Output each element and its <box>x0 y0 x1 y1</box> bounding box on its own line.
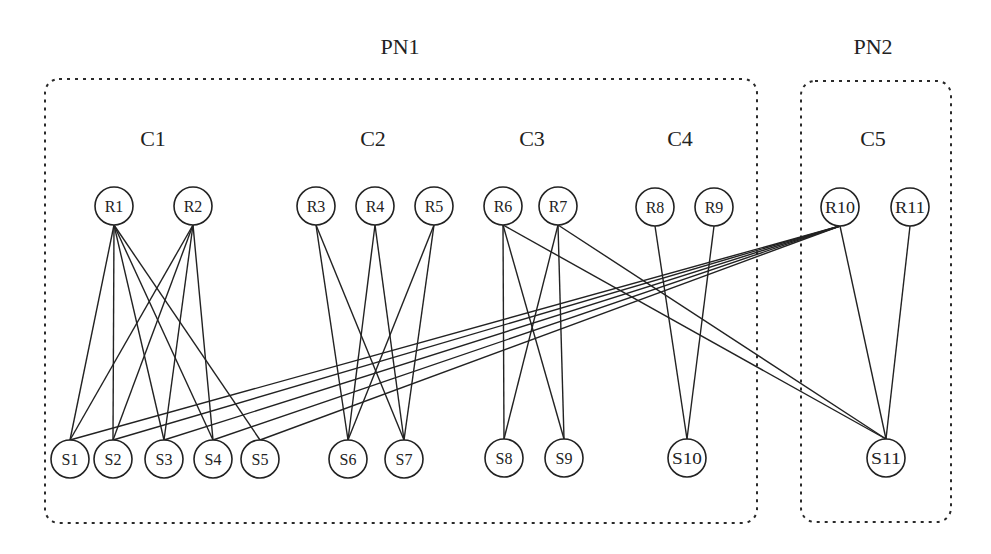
node-label: R10 <box>825 199 855 216</box>
node-label: R8 <box>646 199 665 216</box>
cluster-label-c5: C5 <box>860 126 886 151</box>
edge-r7-s11 <box>558 225 886 439</box>
node-label: S2 <box>105 451 122 468</box>
node-r3[interactable]: R3 <box>297 187 335 225</box>
node-s6[interactable]: S6 <box>329 440 367 478</box>
edge-r2-s4 <box>193 225 213 440</box>
node-s4[interactable]: S4 <box>194 440 232 478</box>
node-r11[interactable]: R11 <box>891 188 929 226</box>
node-label: S10 <box>672 450 702 467</box>
node-label: R4 <box>366 198 385 215</box>
node-label: S7 <box>396 451 413 468</box>
cluster-label-c2: C2 <box>360 126 386 151</box>
cluster-label-c3: C3 <box>519 126 545 151</box>
node-s9[interactable]: S9 <box>545 439 583 477</box>
node-r5[interactable]: R5 <box>415 187 453 225</box>
edge-r10-s3 <box>164 226 840 440</box>
node-s8[interactable]: S8 <box>485 439 523 477</box>
node-label: R5 <box>425 198 444 215</box>
node-label: S11 <box>871 450 901 467</box>
node-r8[interactable]: R8 <box>636 188 674 226</box>
node-s1[interactable]: S1 <box>51 440 89 478</box>
node-label: S3 <box>156 451 173 468</box>
edge-r3-s6 <box>316 225 348 440</box>
edge-r9-s10 <box>687 226 714 439</box>
node-label: R1 <box>105 198 124 215</box>
network-diagram: R1R2R3R4R5R6R7R8R9R10R11S1S2S3S4S5S6S7S8… <box>0 0 991 554</box>
group-label-pn2: PN2 <box>853 34 892 59</box>
node-r2[interactable]: R2 <box>174 187 212 225</box>
node-label: S6 <box>340 451 357 468</box>
node-label: S9 <box>556 450 573 467</box>
labels: PN1PN2C1C2C3C4C5 <box>140 34 892 151</box>
node-label: S8 <box>496 450 513 467</box>
edge-r10-s2 <box>113 226 840 440</box>
node-s3[interactable]: S3 <box>145 440 183 478</box>
node-s7[interactable]: S7 <box>385 440 423 478</box>
node-label: R11 <box>895 199 925 216</box>
node-s10[interactable]: S10 <box>668 439 706 477</box>
edge-r1-s3 <box>114 225 164 440</box>
edge-r2-s1 <box>70 225 193 440</box>
node-label: S4 <box>205 451 222 468</box>
node-label: R3 <box>307 198 326 215</box>
edge-r4-s7 <box>375 225 404 440</box>
node-r4[interactable]: R4 <box>356 187 394 225</box>
node-r9[interactable]: R9 <box>695 188 733 226</box>
node-s5[interactable]: S5 <box>241 440 279 478</box>
edge-r5-s7 <box>404 225 434 440</box>
node-r6[interactable]: R6 <box>484 187 522 225</box>
node-s11[interactable]: S11 <box>867 439 905 477</box>
cluster-label-c4: C4 <box>667 126 693 151</box>
node-label: R2 <box>184 198 203 215</box>
node-label: R6 <box>494 198 513 215</box>
node-label: S5 <box>252 451 269 468</box>
edge-r2-s2 <box>113 225 193 440</box>
node-label: S1 <box>62 451 79 468</box>
edge-r10-s11 <box>840 226 886 439</box>
edges <box>70 225 910 440</box>
edge-r10-s4 <box>213 226 840 440</box>
edge-r11-s11 <box>886 226 910 439</box>
node-s2[interactable]: S2 <box>94 440 132 478</box>
group-label-pn1: PN1 <box>380 34 419 59</box>
edge-r8-s10 <box>655 226 687 439</box>
node-label: R7 <box>549 198 568 215</box>
node-r10[interactable]: R10 <box>821 188 859 226</box>
edge-r1-s1 <box>70 225 114 440</box>
edge-r1-s2 <box>113 225 114 440</box>
node-r1[interactable]: R1 <box>95 187 133 225</box>
cluster-label-c1: C1 <box>140 126 166 151</box>
node-label: R9 <box>705 199 724 216</box>
node-r7[interactable]: R7 <box>539 187 577 225</box>
edge-r1-s4 <box>114 225 213 440</box>
